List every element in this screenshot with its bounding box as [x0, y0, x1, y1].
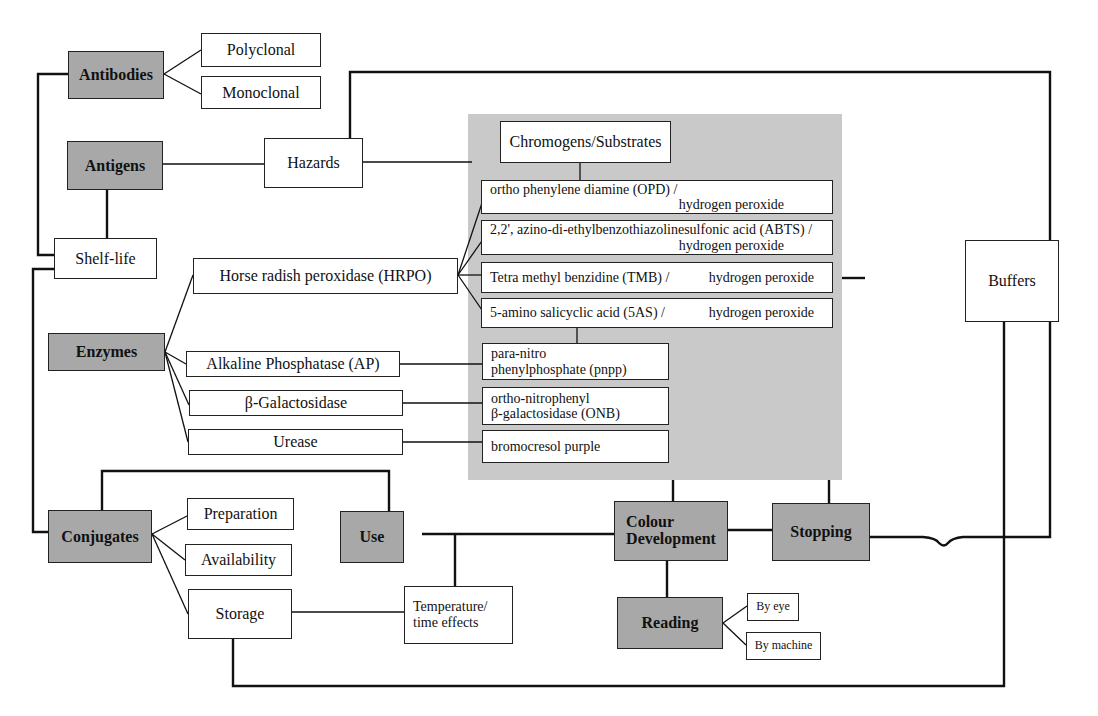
node-label: Alkaline Phosphatase (AP): [206, 355, 379, 373]
node-label: By machine: [755, 639, 813, 652]
node-label: Antibodies: [79, 66, 153, 84]
node-colour-development: ColourDevelopment: [614, 501, 728, 561]
node-temperature: Temperature/time effects: [404, 586, 513, 644]
node-label: hydrogen peroxide: [490, 238, 824, 253]
node-label: Tetra methyl benzidine (TMB) /: [490, 270, 669, 285]
node-storage: Storage: [188, 589, 292, 639]
node-label: hydrogen peroxide: [709, 270, 814, 285]
node-label: β-Galactosidase: [245, 394, 347, 412]
node-label: Enzymes: [76, 343, 137, 361]
node-label: Polyclonal: [227, 41, 295, 59]
node-label: hydrogen peroxide: [709, 305, 814, 320]
node-antigens: Antigens: [67, 141, 163, 190]
node-label: Preparation: [204, 505, 278, 523]
node-label: phenylphosphate (pnpp): [491, 362, 627, 377]
node-5as: 5-amino salicyclic acid (5AS) /hydrogen …: [481, 298, 833, 328]
node-label: hydrogen peroxide: [490, 197, 824, 212]
node-ap: Alkaline Phosphatase (AP): [186, 351, 400, 377]
node-label: 5-amino salicyclic acid (5AS) /: [490, 305, 665, 320]
node-shelf-life: Shelf-life: [54, 238, 157, 279]
node-buffers: Buffers: [965, 240, 1059, 322]
node-label: Availability: [201, 551, 276, 569]
node-label: Colour: [626, 514, 716, 531]
node-label: ortho-nitrophenyl: [491, 391, 620, 406]
node-label: 2,2', azino-di-ethylbenzothiazolinesulfo…: [490, 222, 824, 237]
node-label: β-galactosidase (ONB): [491, 406, 620, 421]
node-label: bromocresol purple: [491, 439, 600, 454]
node-label: Reading: [642, 614, 699, 632]
node-stopping: Stopping: [772, 503, 870, 561]
node-hrpo: Horse radish peroxidase (HRPO): [193, 258, 458, 294]
node-label: ortho phenylene diamine (OPD) /: [490, 182, 824, 197]
node-enzymes: Enzymes: [48, 333, 165, 371]
node-use: Use: [340, 511, 404, 563]
node-onb: ortho-nitrophenylβ-galactosidase (ONB): [482, 387, 669, 425]
node-label: Stopping: [790, 523, 851, 541]
node-label: Monoclonal: [222, 84, 299, 102]
node-label: para-nitro: [491, 346, 627, 361]
node-label: By eye: [756, 600, 790, 613]
node-monoclonal: Monoclonal: [201, 76, 321, 109]
node-label: Antigens: [85, 157, 145, 175]
node-label: Horse radish peroxidase (HRPO): [220, 267, 432, 285]
node-label: Conjugates: [61, 528, 138, 546]
node-antibodies: Antibodies: [68, 51, 164, 99]
node-label: Chromogens/Substrates: [510, 133, 662, 151]
node-tmb: Tetra methyl benzidine (TMB) /hydrogen p…: [481, 262, 833, 293]
node-conjugates: Conjugates: [48, 510, 152, 563]
node-label: Temperature/: [413, 599, 487, 615]
node-label: Development: [626, 531, 716, 548]
node-by-eye: By eye: [747, 593, 799, 621]
node-by-machine: By machine: [746, 632, 821, 660]
node-label: Urease: [273, 433, 317, 451]
node-bromocresol: bromocresol purple: [482, 430, 669, 463]
node-polyclonal: Polyclonal: [201, 33, 321, 67]
node-label: time effects: [413, 615, 487, 631]
node-preparation: Preparation: [187, 498, 294, 530]
node-urease: Urease: [188, 429, 403, 455]
node-label: Buffers: [988, 272, 1036, 290]
node-hazards: Hazards: [264, 138, 363, 188]
node-abts: 2,2', azino-di-ethylbenzothiazolinesulfo…: [481, 220, 833, 255]
node-label: Hazards: [287, 154, 339, 172]
node-pnpp: para-nitrophenylphosphate (pnpp): [482, 343, 669, 380]
node-label: Shelf-life: [75, 250, 135, 268]
node-opd: ortho phenylene diamine (OPD) /hydrogen …: [481, 180, 833, 214]
node-bgal: β-Galactosidase: [189, 390, 403, 416]
node-label: Storage: [216, 605, 265, 623]
node-label: Use: [360, 528, 385, 546]
node-chromogens: Chromogens/Substrates: [500, 121, 671, 163]
node-availability: Availability: [185, 544, 292, 576]
node-reading: Reading: [617, 597, 723, 649]
